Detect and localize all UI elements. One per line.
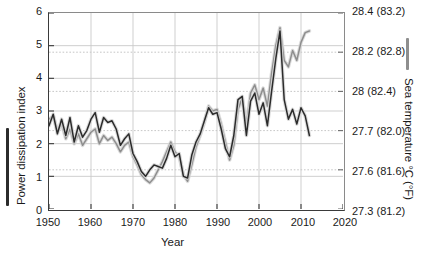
ytick-4: 4 — [16, 71, 42, 83]
ytick-1: 1 — [16, 171, 42, 183]
xtick-1970: 1970 — [113, 216, 153, 228]
xtick-1960: 1960 — [70, 216, 110, 228]
y2tick-27-7: 27.7 (82.0) — [352, 125, 405, 137]
ytick-5: 5 — [16, 38, 42, 50]
ytick-2: 2 — [16, 138, 42, 150]
chart-root: Power dissipation index Sea temperature … — [0, 0, 430, 260]
tickmarks-bottom — [49, 204, 343, 209]
xtick-2000: 2000 — [240, 216, 280, 228]
y2tick-28-2: 28.2 (82.8) — [352, 45, 405, 57]
xtick-1990: 1990 — [198, 216, 238, 228]
y2tick-28: 28 (82.4) — [352, 85, 396, 97]
ytick-3: 3 — [16, 104, 42, 116]
y2tick-28-4: 28.4 (83.2) — [352, 5, 405, 17]
xtick-2020: 2020 — [325, 216, 365, 228]
xtick-1950: 1950 — [28, 216, 68, 228]
legend-marker-sea-temperature — [406, 38, 409, 70]
tickmarks-left — [49, 13, 54, 209]
xtick-2010: 2010 — [283, 216, 323, 228]
y2tick-27-6: 27.6 (81.6) — [352, 165, 405, 177]
data-series — [49, 28, 309, 183]
y2-axis-title: Sea temperature °C (°F) — [403, 78, 415, 200]
ytick-6: 6 — [16, 5, 42, 17]
x-axis-title: Year — [0, 236, 345, 248]
ytick-0: 0 — [16, 204, 42, 216]
plot-svg — [49, 13, 343, 209]
legend-marker-power-dissipation — [6, 128, 9, 206]
plot-area — [48, 12, 345, 211]
xtick-1980: 1980 — [155, 216, 195, 228]
